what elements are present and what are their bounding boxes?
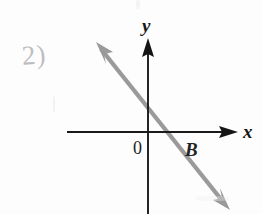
line-b-segment — [101, 49, 224, 203]
pencil-item-number-annotation: 2) — [21, 41, 47, 70]
figure-container: y x 0 B 2) — [0, 0, 263, 214]
y-axis-graphic — [142, 38, 154, 214]
pencil-smudge-bottom-right — [196, 196, 230, 201]
y-axis-label: y — [142, 16, 150, 35]
origin-label: 0 — [133, 139, 142, 157]
pencil-smudge-top — [136, 0, 140, 9]
coordinate-plane-graphic — [0, 0, 263, 214]
x-axis-label: x — [243, 122, 253, 141]
x-axis-graphic — [67, 126, 238, 138]
line-b-label: B — [185, 140, 198, 159]
pencil-smudge-left — [53, 96, 55, 113]
line-b-graphic — [96, 42, 230, 210]
